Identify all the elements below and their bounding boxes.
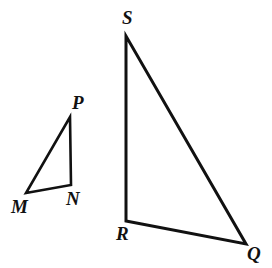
- triangle-mnp: [26, 117, 71, 193]
- triangle-qrs: [126, 36, 246, 244]
- vertex-label-n: N: [66, 189, 80, 208]
- vertex-label-q: Q: [247, 244, 261, 263]
- triangles-canvas: [0, 0, 272, 268]
- vertex-label-p: P: [72, 93, 84, 112]
- vertex-label-s: S: [122, 8, 133, 27]
- vertex-label-m: M: [11, 197, 28, 216]
- geometry-figure: P M N S R Q: [0, 0, 272, 268]
- vertex-label-r: R: [116, 224, 129, 243]
